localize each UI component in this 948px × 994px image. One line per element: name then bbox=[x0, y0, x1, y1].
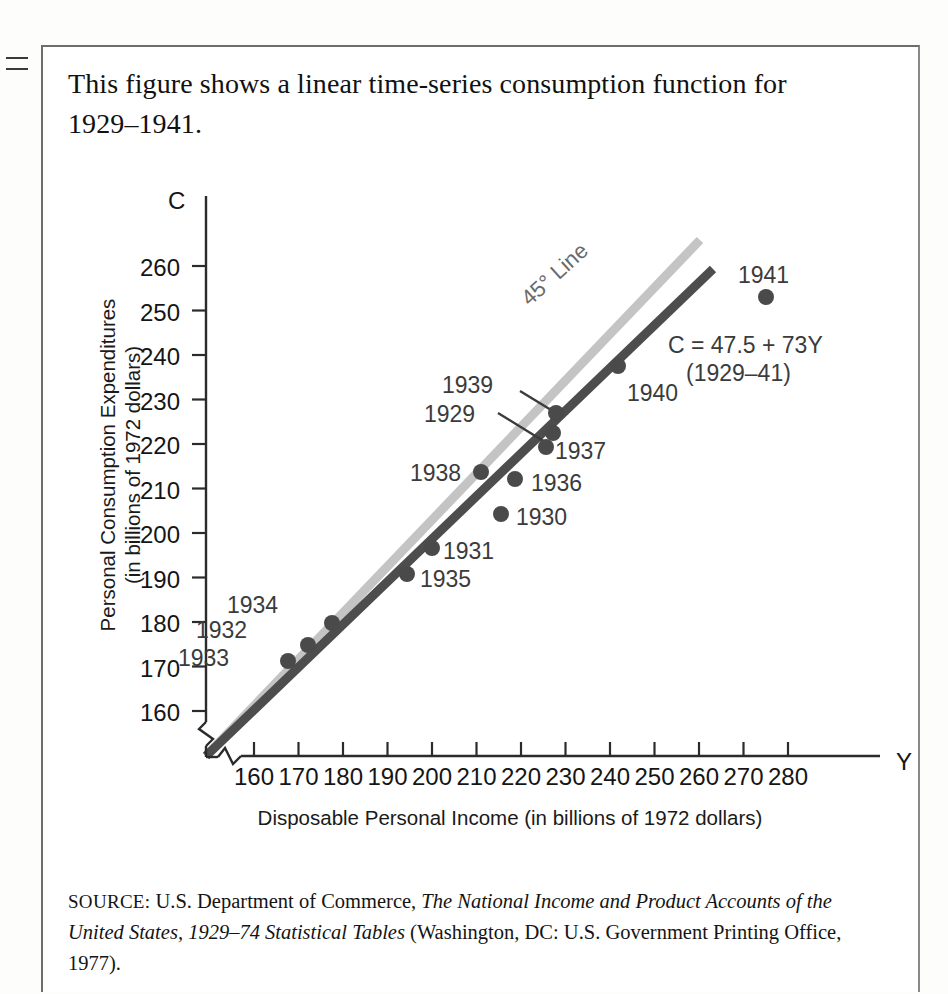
x-tick-280: 280 bbox=[760, 763, 816, 791]
y-axis-title-line1: Personal Consumption Expenditures bbox=[95, 250, 120, 680]
point-label-1930: 1930 bbox=[516, 504, 567, 531]
x-axis-letter: Y bbox=[896, 748, 912, 776]
point-label-1939: 1939 bbox=[442, 372, 493, 399]
point-label-1940: 1940 bbox=[627, 380, 678, 407]
source-note: SOURCE: U.S. Department of Commerce, The… bbox=[68, 886, 868, 978]
point-label-1935: 1935 bbox=[420, 566, 471, 593]
point-label-1941: 1941 bbox=[738, 262, 789, 289]
y-tick-160: 160 bbox=[122, 699, 180, 727]
source-prefix: SOURCE: bbox=[68, 891, 150, 912]
point-label-1929: 1929 bbox=[424, 401, 475, 428]
point-label-1937: 1937 bbox=[555, 438, 606, 465]
x-axis-title: Disposable Personal Income (in billions … bbox=[200, 806, 820, 830]
point-label-1932: 1932 bbox=[196, 617, 247, 644]
equation-line1: C = 47.5 + 73Y bbox=[668, 332, 823, 359]
point-label-1934: 1934 bbox=[227, 592, 278, 619]
y-axis-letter: C bbox=[168, 187, 185, 215]
point-label-1931: 1931 bbox=[443, 538, 494, 565]
source-text-1: U.S. Department of Commerce, bbox=[155, 890, 421, 912]
margin-equals-mark bbox=[6, 57, 28, 70]
point-label-1936: 1936 bbox=[531, 470, 582, 497]
equation-line2: (1929–41) bbox=[686, 360, 791, 387]
point-label-1933: 1933 bbox=[178, 645, 229, 672]
point-label-1938: 1938 bbox=[410, 460, 461, 487]
figure-caption: This figure shows a linear time-series c… bbox=[68, 64, 858, 144]
y-axis-title-line2: (in billions of 1972 dollars) bbox=[120, 250, 145, 680]
y-axis-title: Personal Consumption Expenditures (in bi… bbox=[95, 250, 145, 680]
